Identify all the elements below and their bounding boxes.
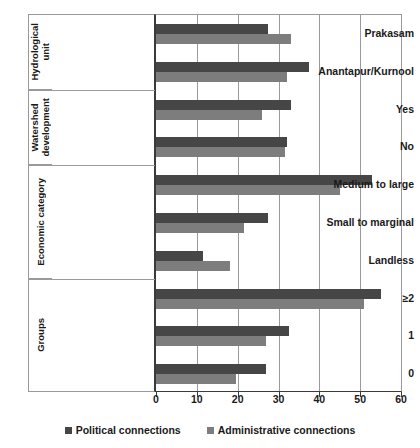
group-axis: Hydrological unitWatershed developmentEc… — [28, 14, 52, 392]
category-label: Landless — [368, 254, 414, 266]
category-label: Anantapur/Kurnool — [318, 65, 414, 77]
legend-label-administrative: Administrative connections — [218, 424, 356, 436]
legend-swatch-icon — [65, 427, 72, 434]
bar-chart: Hydrological unitWatershed developmentEc… — [0, 0, 420, 448]
group-label: Economic category — [35, 178, 46, 266]
bar-administrative — [156, 299, 364, 309]
bar-administrative — [156, 336, 266, 346]
bar-administrative — [156, 374, 236, 384]
group-separator — [28, 165, 155, 166]
bar-political — [156, 24, 268, 34]
group-band: Watershed development — [28, 90, 52, 166]
x-tick-label: 0 — [153, 393, 159, 405]
legend-label-political: Political connections — [76, 424, 181, 436]
group-label: Groups — [35, 318, 46, 352]
category-label: ≥2 — [402, 292, 414, 304]
bar-political — [156, 364, 266, 374]
bar-political — [156, 251, 203, 261]
bar-administrative — [156, 34, 291, 44]
x-tick-label: 60 — [395, 393, 407, 405]
x-tick-label: 40 — [313, 393, 325, 405]
category-label: Prakasam — [364, 27, 414, 39]
category-label: No — [400, 140, 414, 152]
group-band: Hydrological unit — [28, 14, 52, 90]
bar-political — [156, 213, 268, 223]
bar-administrative — [156, 72, 287, 82]
x-tick-label: 30 — [273, 393, 285, 405]
category-label: Yes — [396, 103, 414, 115]
group-band: Economic category — [28, 165, 52, 278]
category-label: 1 — [408, 329, 414, 341]
bar-political — [156, 62, 309, 72]
bar-political — [156, 326, 289, 336]
group-label: Watershed development — [29, 98, 51, 157]
bar-administrative — [156, 110, 262, 120]
bar-administrative — [156, 147, 285, 157]
bar-administrative — [156, 185, 340, 195]
x-tick-label: 20 — [232, 393, 244, 405]
group-band: Groups — [28, 279, 52, 392]
x-tick-label: 50 — [354, 393, 366, 405]
chart-legend: Political connections Administrative con… — [0, 424, 420, 436]
bar-administrative — [156, 261, 230, 271]
category-label: Medium to large — [333, 178, 414, 190]
bar-political — [156, 100, 291, 110]
legend-item-administrative: Administrative connections — [207, 424, 356, 436]
bar-political — [156, 289, 381, 299]
category-label: 0 — [408, 367, 414, 379]
x-tick-label: 10 — [191, 393, 203, 405]
category-label: Small to marginal — [326, 216, 414, 228]
legend-swatch-icon — [207, 427, 214, 434]
legend-item-political: Political connections — [65, 424, 181, 436]
group-label: Hydrological unit — [29, 23, 51, 81]
bar-administrative — [156, 223, 244, 233]
group-separator — [28, 279, 155, 280]
bar-political — [156, 137, 287, 147]
group-separator — [28, 90, 155, 91]
